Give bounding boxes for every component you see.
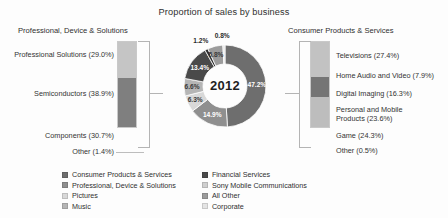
slice-label-pictures: 6.3%: [188, 96, 203, 103]
legend-item-label: Financial Services: [212, 170, 270, 180]
legend-item[interactable]: Pictures: [62, 191, 176, 201]
left-label-other: Other (1.4%): [2, 147, 114, 156]
legend-swatch-icon: [62, 203, 68, 209]
left-label-professional-solutions: Professional Solutions (29.0%): [2, 50, 114, 59]
legend-item-label: Sony Mobile Communications: [212, 181, 307, 191]
legend-item-label: Pictures: [72, 191, 98, 201]
group-heading-left: Professional, Device & Solutions: [18, 26, 128, 35]
chart-title: Proportion of sales by business: [0, 7, 448, 17]
group-heading-right: Consumer Products & Services: [288, 26, 394, 35]
bracket-left: [138, 41, 150, 148]
legend-item[interactable]: Music: [62, 202, 176, 212]
breakdown-segment: [118, 78, 136, 127]
slice-label-corporate: 0.8%: [215, 32, 230, 39]
slice-label-all-other: 5.8%: [208, 51, 223, 58]
slice-label-financial-services: 13.4%: [190, 64, 209, 71]
left-label-components: Components (30.7%): [2, 131, 114, 140]
legend-column-1: Consumer Products & ServicesProfessional…: [62, 170, 176, 211]
leader-line-left-other: [116, 152, 144, 153]
legend-column-2: Financial ServicesSony Mobile Communicat…: [202, 170, 307, 211]
legend-swatch-icon: [62, 182, 68, 188]
legend-item-label: All Other: [212, 191, 240, 201]
right-label-game: Game (24.3%): [336, 131, 383, 140]
legend-item[interactable]: Consumer Products & Services: [62, 170, 176, 180]
breakdown-segment: [311, 97, 329, 127]
right-label-televisions: Televisions (27.4%): [336, 51, 399, 60]
legend-swatch-icon: [202, 193, 208, 199]
legend-item-label: Professional, Device & Solutions: [72, 181, 176, 191]
right-label-digital-imaging: Digital Imaging (16.3%): [336, 89, 412, 98]
slice-label-music: 6.6%: [185, 83, 200, 90]
slice-label-professional-device: 14.9%: [203, 111, 222, 118]
legend-item-label: Corporate: [212, 202, 244, 212]
breakdown-bar-right: [310, 41, 330, 128]
legend-item-label: Music: [72, 202, 91, 212]
breakdown-segment: [311, 77, 329, 98]
slice-label-consumer-products: 47.2%: [247, 81, 266, 88]
left-label-semiconductors: Semiconductors (38.9%): [2, 89, 114, 98]
bracket-right-stem: [285, 93, 299, 94]
legend-swatch-icon: [62, 172, 68, 178]
legend-item-label: Consumer Products & Services: [72, 170, 172, 180]
breakdown-bar-left: [117, 41, 137, 128]
legend-item[interactable]: Sony Mobile Communications: [202, 181, 307, 191]
chart-container: Proportion of sales by business Professi…: [0, 0, 448, 218]
legend-item[interactable]: Corporate: [202, 202, 307, 212]
legend-item[interactable]: Professional, Device & Solutions: [62, 181, 176, 191]
bracket-left-stem: [149, 93, 163, 94]
slice-label-sony-mobile: 1.2%: [193, 37, 208, 44]
right-label-personal-mobile-products: Personal and Mobile Products (23.6%): [336, 105, 403, 123]
legend-item[interactable]: Financial Services: [202, 170, 307, 180]
right-label-other: Other (0.5%): [336, 146, 378, 155]
legend-swatch-icon: [202, 182, 208, 188]
bracket-right: [299, 41, 311, 148]
legend-swatch-icon: [62, 193, 68, 199]
right-label-home-audio-video: Home Audio and Video (7.9%): [336, 71, 434, 80]
legend: Consumer Products & ServicesProfessional…: [62, 170, 392, 211]
breakdown-segment: [311, 42, 329, 77]
legend-item[interactable]: All Other: [202, 191, 307, 201]
breakdown-segment: [118, 42, 136, 78]
legend-swatch-icon: [202, 203, 208, 209]
legend-swatch-icon: [202, 172, 208, 178]
